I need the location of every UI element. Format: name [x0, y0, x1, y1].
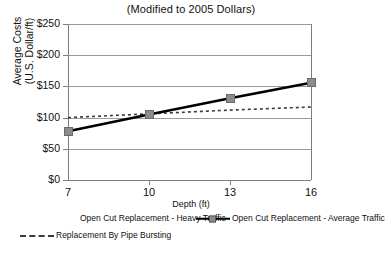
legend-swatch-dotted-line-icon — [20, 231, 54, 240]
legend-swatch-solid-line-icon — [196, 214, 230, 223]
legend-item-pipe-bursting: Replacement By Pipe Bursting — [20, 231, 171, 240]
series-line-average-traffic — [68, 83, 311, 132]
y-tick-label-50: $50 — [14, 142, 60, 154]
x-axis-title: Depth (ft) — [0, 199, 382, 209]
x-tick-label-16: 16 — [291, 186, 331, 198]
x-tick-10 — [149, 180, 150, 185]
y-tick-label-200: $200 — [14, 48, 60, 60]
legend-label-average-traffic: Open Cut Replacement - Average Traffic — [232, 214, 385, 223]
x-tick-label-7: 7 — [48, 186, 88, 198]
y-tick-label-250: $250 — [14, 17, 60, 29]
y-tick-label-150: $150 — [14, 79, 60, 91]
x-tick-label-10: 10 — [129, 186, 169, 198]
chart-legend: Open Cut Replacement - Heavy Traffic Ope… — [0, 214, 382, 242]
legend-row-1: Open Cut Replacement - Heavy Traffic Ope… — [0, 214, 382, 228]
legend-row-2: Replacement By Pipe Bursting — [0, 228, 382, 242]
data-point-marker — [307, 78, 316, 87]
legend-label-pipe-bursting: Replacement By Pipe Bursting — [56, 231, 171, 240]
legend-item-average-traffic: Open Cut Replacement - Average Traffic — [196, 214, 385, 223]
data-point-marker — [64, 127, 73, 136]
data-point-marker — [145, 110, 154, 119]
plot-area — [68, 24, 312, 180]
x-tick-13 — [230, 180, 231, 185]
y-tick-label-0: $0 — [14, 173, 60, 185]
legend-swatch-blank-icon — [44, 214, 78, 223]
data-point-marker — [226, 94, 235, 103]
series-lines — [68, 24, 311, 180]
series-line-pipe-bursting — [68, 107, 311, 118]
gridline-0 — [68, 180, 311, 181]
chart-title: (Modified to 2005 Dollars) — [0, 3, 382, 15]
y-tick-label-100: $100 — [14, 111, 60, 123]
x-tick-label-13: 13 — [210, 186, 250, 198]
